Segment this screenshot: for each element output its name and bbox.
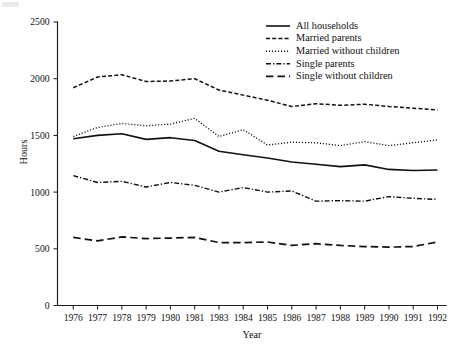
series-line (73, 176, 437, 202)
legend-label: Married parents (296, 32, 361, 43)
x-tick-label: 1981 (185, 312, 204, 323)
y-tick-label: 500 (35, 243, 50, 254)
x-axis-ticks (73, 306, 437, 310)
series-line (73, 237, 437, 247)
legend-label: Married without children (296, 45, 400, 56)
y-tick-label: 2000 (30, 73, 49, 84)
y-axis-ticks (54, 22, 58, 306)
series-line (73, 134, 437, 171)
x-tick-label: 1985 (258, 312, 277, 323)
x-tick-label: 1992 (428, 312, 447, 323)
x-tick-label: 1979 (137, 312, 156, 323)
x-axis-title: Year (243, 329, 262, 340)
legend-label: All households (296, 20, 358, 31)
legend-label: Single parents (296, 58, 355, 69)
x-tick-label: 1984 (234, 312, 253, 323)
x-tick-label: 1980 (161, 312, 180, 323)
y-tick-label: 2500 (30, 16, 49, 27)
line-chart: 05001000150020002500 1976197719781979198… (0, 0, 465, 350)
series-line (73, 118, 437, 145)
y-tick-label: 0 (45, 300, 50, 311)
legend-label: Single without children (296, 70, 393, 81)
chart-legend: All householdsMarried parentsMarried wit… (266, 20, 400, 81)
x-axis-tick-labels: 1976197719781979198019811983198419851986… (64, 312, 448, 323)
x-tick-label: 1986 (282, 312, 301, 323)
scan-artifact (2, 2, 19, 7)
y-tick-label: 1500 (30, 130, 49, 141)
x-tick-label: 1991 (404, 312, 423, 323)
x-tick-label: 1976 (64, 312, 83, 323)
x-tick-label: 1989 (355, 312, 374, 323)
x-tick-label: 1983 (209, 312, 228, 323)
y-axis-title: Hours (18, 140, 29, 165)
x-tick-label: 1990 (379, 312, 398, 323)
y-tick-label: 1000 (30, 187, 49, 198)
series-lines (73, 75, 437, 247)
x-tick-label: 1987 (307, 312, 326, 323)
chart-figure: 05001000150020002500 1976197719781979198… (0, 0, 465, 350)
x-tick-label: 1978 (112, 312, 131, 323)
y-axis-tick-labels: 05001000150020002500 (30, 16, 49, 311)
x-tick-label: 1977 (88, 312, 107, 323)
x-tick-label: 1988 (331, 312, 350, 323)
